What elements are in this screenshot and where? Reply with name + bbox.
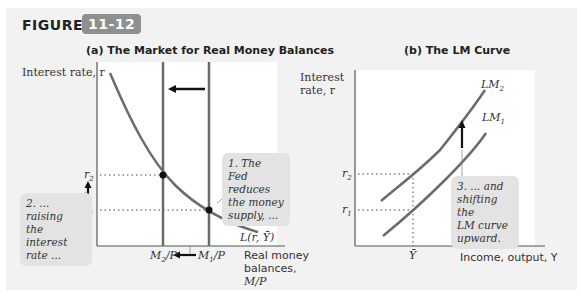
panel-b-ylabel: Interest rate, r bbox=[300, 71, 344, 97]
money-demand-label: L(r, Ȳ) bbox=[240, 231, 274, 244]
lm2-label: LM2 bbox=[481, 78, 504, 96]
panel-a-ylabel: Interest rate, r bbox=[22, 66, 105, 79]
ybar-tick: Ȳ bbox=[409, 249, 416, 262]
note-shifting-lm: 3. ... and shifting the LM curve upward. bbox=[451, 176, 519, 249]
panel-b-title: (b) The LM Curve bbox=[404, 44, 510, 57]
m2-tick: M2/P bbox=[150, 249, 177, 267]
panel-a-xlabel: Real money balances, M/P bbox=[244, 249, 309, 288]
note-fed-reduces: 1. The Fed reduces the money supply, ... bbox=[222, 153, 290, 226]
panel-b-xlabel: Income, output, Y bbox=[460, 251, 557, 264]
lm1-label: LM1 bbox=[482, 111, 505, 129]
r1-tick-b: r1 bbox=[342, 203, 352, 221]
m1-tick: M1/P bbox=[198, 249, 225, 267]
r2-tick-b: r2 bbox=[342, 167, 352, 185]
r2-tick-a: r2 bbox=[84, 168, 94, 186]
note-raising-rate: 2. ... raising the interest rate ... bbox=[20, 193, 92, 266]
equilibrium-point-1 bbox=[206, 207, 213, 214]
equilibrium-point-2 bbox=[160, 172, 167, 179]
panel-a-title: (a) The Market for Real Money Balances bbox=[86, 44, 334, 57]
